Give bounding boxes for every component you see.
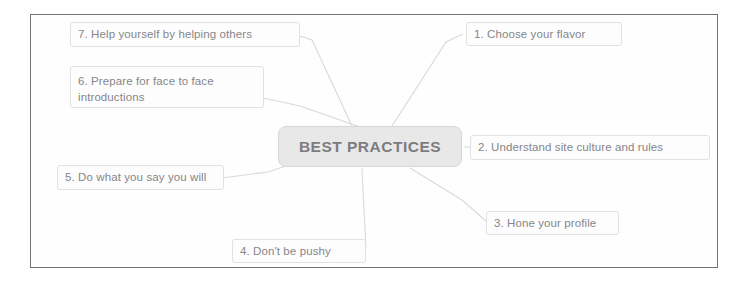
node-6-label: 6. Prepare for face to face introduction… <box>78 73 256 105</box>
node-5[interactable]: 5. Do what you say you will <box>57 165 224 190</box>
connector-node-1 <box>392 34 463 126</box>
node-1[interactable]: 1. Choose your flavor <box>466 22 622 46</box>
center-node-best-practices[interactable]: BEST PRACTICES <box>278 126 462 167</box>
connector-node-3 <box>410 168 487 222</box>
connector-node-5 <box>222 166 286 178</box>
node-6[interactable]: 6. Prepare for face to face introduction… <box>70 66 264 108</box>
node-3-label: 3. Hone your profile <box>494 216 596 231</box>
node-5-label: 5. Do what you say you will <box>65 170 206 185</box>
node-2-label: 2. Understand site culture and rules <box>478 140 663 155</box>
connector-node-7 <box>300 36 352 126</box>
node-4-label: 4. Don't be pushy <box>240 244 331 259</box>
mind-map-canvas: 7. Help yourself by helping others 6. Pr… <box>0 0 748 285</box>
node-7-label: 7. Help yourself by helping others <box>78 27 252 42</box>
node-2[interactable]: 2. Understand site culture and rules <box>470 135 710 160</box>
node-4[interactable]: 4. Don't be pushy <box>232 239 366 263</box>
connector-node-4 <box>362 168 366 248</box>
node-7[interactable]: 7. Help yourself by helping others <box>70 22 300 47</box>
center-node-label: BEST PRACTICES <box>299 138 441 156</box>
node-1-label: 1. Choose your flavor <box>474 27 585 42</box>
node-3[interactable]: 3. Hone your profile <box>486 211 619 235</box>
